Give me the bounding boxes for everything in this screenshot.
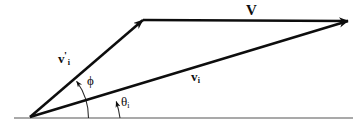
angle-label-theta-i: θi — [121, 95, 129, 108]
vector-label-v-prime-i: v'i — [58, 52, 70, 66]
angle-label-phi: ϕ — [87, 74, 94, 87]
vector-diagram-canvas — [0, 0, 360, 126]
vector-v-i — [30, 21, 348, 117]
v-prime-mark: ' — [64, 50, 67, 61]
vector-label-V: V — [246, 3, 257, 18]
vector-label-v-i: vi — [191, 70, 200, 83]
v-prime-subscript: i — [68, 58, 70, 67]
theta-angle-arc — [116, 102, 120, 119]
v-i-base: v — [191, 69, 198, 84]
vector-V — [143, 20, 348, 21]
vector-addition-figure: V v'i vi ϕ θi — [0, 0, 360, 126]
v-i-subscript: i — [198, 76, 200, 85]
